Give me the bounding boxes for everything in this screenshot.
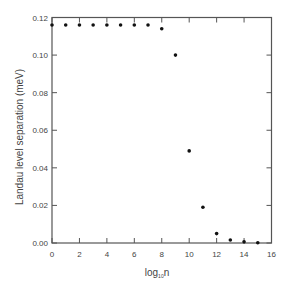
y-tick-label: 0.02 [32, 201, 48, 210]
x-tick-label: 16 [267, 250, 276, 259]
y-tick-label: 0.10 [32, 51, 48, 60]
x-axis-ticks: 0246810121416 [50, 18, 277, 260]
y-axis-label: Landau level separation (meV) [14, 69, 25, 205]
x-tick-label: 6 [132, 250, 137, 259]
data-point [105, 23, 109, 27]
y-axis-ticks: 0.000.020.040.060.080.100.12 [32, 14, 271, 249]
data-point [50, 23, 54, 27]
x-tick-label: 4 [105, 250, 110, 259]
data-point [201, 205, 205, 209]
plot-border [52, 18, 272, 244]
data-point [119, 23, 123, 27]
y-tick-label: 0.00 [32, 239, 48, 248]
data-point [229, 238, 233, 242]
y-tick-label: 0.12 [32, 14, 48, 23]
data-point [215, 232, 219, 236]
data-point [64, 23, 68, 27]
data-point [174, 53, 178, 57]
data-point [78, 23, 82, 27]
plot-frame [52, 18, 272, 244]
x-tick-label: 2 [77, 250, 82, 259]
x-tick-label: 0 [50, 250, 55, 259]
data-point [91, 23, 95, 27]
y-tick-label: 0.08 [32, 89, 48, 98]
data-point [146, 23, 150, 27]
x-tick-label: 14 [240, 250, 249, 259]
data-points [50, 23, 259, 244]
data-point [160, 27, 164, 31]
y-tick-label: 0.04 [32, 164, 48, 173]
data-point [133, 23, 137, 27]
x-tick-label: 10 [185, 250, 194, 259]
y-tick-label: 0.06 [32, 126, 48, 135]
scatter-chart: 0246810121416 0.000.020.040.060.080.100.… [0, 0, 288, 288]
data-point [256, 241, 260, 245]
x-tick-label: 8 [160, 250, 165, 259]
data-point [242, 240, 246, 244]
data-point [187, 149, 191, 153]
x-axis-label: log10n [145, 267, 169, 279]
x-tick-label: 12 [212, 250, 221, 259]
